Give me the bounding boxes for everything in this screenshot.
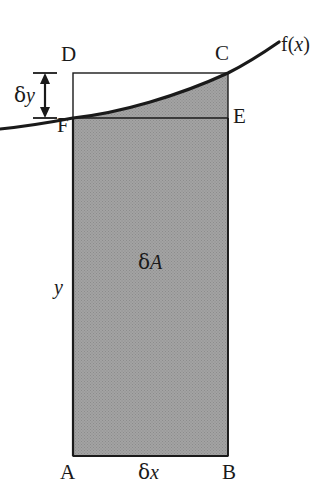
delta-symbol-a: δ	[138, 250, 150, 274]
shaded-rectangle-abef	[73, 118, 228, 456]
delta-symbol-y: δ	[14, 83, 26, 107]
curve-label-name: f(	[281, 33, 294, 55]
annotation-y: y	[54, 277, 63, 297]
vertex-label-a: A	[60, 462, 75, 483]
vertex-label-b: B	[222, 462, 236, 483]
annotation-delta-x: δx	[138, 462, 159, 482]
annotation-delta-a: δA	[138, 252, 162, 272]
delta-a-variable: A	[150, 251, 162, 273]
vertex-label-f: F	[57, 115, 69, 136]
vertex-label-d: D	[61, 44, 76, 65]
delta-y-dimension	[33, 73, 57, 118]
curve-label-close: )	[303, 33, 310, 55]
delta-y-variable: y	[26, 84, 35, 106]
figure-area-element: D C E F A B f(x) δy δx δA y	[0, 0, 315, 495]
vertex-label-e: E	[233, 106, 246, 127]
diagram-canvas	[0, 0, 315, 495]
vertex-label-c: C	[215, 43, 229, 64]
curve-label-variable: x	[294, 33, 303, 55]
delta-y-arrowhead-down	[40, 107, 50, 118]
delta-y-arrowhead-up	[40, 73, 50, 84]
shaded-sliver-under-curve	[73, 73, 228, 118]
curve-label-fx: f(x)	[281, 34, 310, 54]
delta-x-variable: x	[150, 461, 159, 483]
delta-symbol-x: δ	[138, 460, 150, 484]
annotation-delta-y: δy	[14, 85, 35, 105]
